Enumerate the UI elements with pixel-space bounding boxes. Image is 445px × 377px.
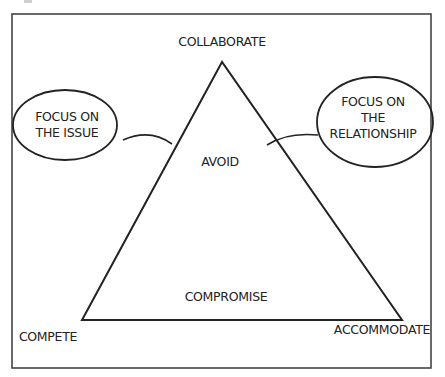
label-compete: COMPETE	[19, 329, 78, 344]
focus-issue-line2: THE ISSUE	[35, 125, 99, 140]
label-collaborate: COLLABORATE	[178, 34, 266, 49]
focus-relationship-line2: THE	[360, 110, 385, 125]
label-compromise: COMPROMISE	[185, 289, 268, 304]
figure-frame	[12, 14, 431, 368]
conflict-styles-diagram: COLLABORATE AVOID COMPROMISE COMPETE ACC…	[0, 0, 445, 377]
left-connector	[123, 135, 172, 144]
focus-relationship-line3: RELATIONSHIP	[330, 126, 418, 141]
focus-relationship-line1: FOCUS ON	[341, 94, 405, 109]
label-accommodate: ACCOMMODATE	[334, 322, 431, 337]
label-avoid: AVOID	[201, 154, 239, 169]
focus-issue-line1: FOCUS ON	[35, 109, 99, 124]
